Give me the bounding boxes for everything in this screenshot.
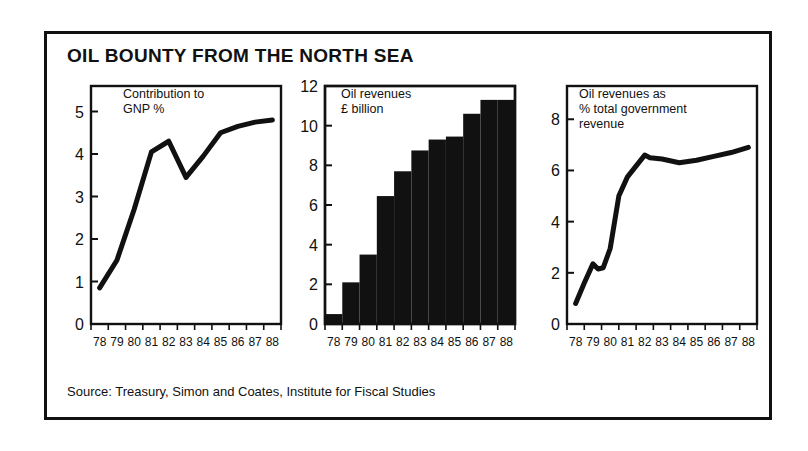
bar bbox=[480, 100, 497, 324]
chart-panel-contribution-to-gnp: 0123457879808182838485868788 Contributio… bbox=[57, 72, 289, 377]
figure-frame: OIL BOUNTY FROM THE NORTH SEA 0123457879… bbox=[44, 31, 772, 420]
bar bbox=[463, 114, 480, 324]
x-axis-tick-label: 83 bbox=[655, 335, 669, 349]
bar bbox=[342, 282, 359, 324]
bar-chart-oil-revenues: 0246810127879808182838485868788 bbox=[291, 72, 523, 377]
bar bbox=[498, 100, 515, 324]
chart-panel-oil-revenues: 0246810127879808182838485868788 Oil reve… bbox=[291, 72, 523, 377]
x-axis-tick-label: 78 bbox=[93, 335, 107, 349]
x-axis-tick-label: 83 bbox=[179, 335, 193, 349]
x-axis-tick-label: 85 bbox=[690, 335, 704, 349]
x-axis-tick-label: 84 bbox=[673, 335, 687, 349]
x-axis-tick-label: 81 bbox=[145, 335, 159, 349]
y-axis-tick-label: 2 bbox=[75, 231, 84, 248]
x-axis-tick-label: 83 bbox=[413, 335, 427, 349]
y-axis-tick-label: 0 bbox=[75, 316, 84, 333]
x-axis-tick-label: 79 bbox=[344, 335, 358, 349]
x-axis-tick-label: 82 bbox=[162, 335, 176, 349]
x-axis-tick-label: 78 bbox=[327, 335, 341, 349]
x-axis-tick-label: 81 bbox=[379, 335, 393, 349]
x-axis-tick-label: 85 bbox=[448, 335, 462, 349]
y-axis-tick-label: 4 bbox=[551, 214, 560, 231]
y-axis-tick-label: 3 bbox=[75, 189, 84, 206]
x-axis-tick-label: 84 bbox=[431, 335, 445, 349]
x-axis-tick-label: 86 bbox=[465, 335, 479, 349]
x-axis-tick-label: 85 bbox=[214, 335, 228, 349]
x-axis-tick-label: 78 bbox=[569, 335, 583, 349]
y-axis-tick-label: 6 bbox=[309, 197, 318, 214]
x-axis-tick-label: 86 bbox=[231, 335, 245, 349]
bar bbox=[411, 150, 428, 324]
data-line bbox=[576, 147, 749, 303]
y-axis-tick-label: 10 bbox=[300, 118, 318, 135]
page-title: OIL BOUNTY FROM THE NORTH SEA bbox=[67, 45, 414, 67]
x-axis-tick-label: 82 bbox=[396, 335, 410, 349]
data-line bbox=[100, 120, 273, 288]
x-axis-tick-label: 87 bbox=[724, 335, 738, 349]
y-axis-tick-label: 0 bbox=[309, 316, 318, 333]
bar bbox=[360, 255, 377, 324]
x-axis-tick-label: 79 bbox=[586, 335, 600, 349]
y-axis-tick-label: 12 bbox=[300, 78, 318, 95]
y-axis-tick-label: 4 bbox=[309, 237, 318, 254]
x-axis-tick-label: 88 bbox=[266, 335, 280, 349]
y-axis-tick-label: 5 bbox=[75, 104, 84, 121]
x-axis-tick-label: 80 bbox=[362, 335, 376, 349]
x-axis-tick-label: 84 bbox=[197, 335, 211, 349]
bar bbox=[429, 140, 446, 324]
bar bbox=[325, 314, 342, 324]
line-chart-government-revenue-share: 024687879808182838485868788 bbox=[533, 72, 765, 377]
y-axis-tick-label: 2 bbox=[309, 276, 318, 293]
x-axis-tick-label: 80 bbox=[128, 335, 142, 349]
x-axis-tick-label: 88 bbox=[742, 335, 756, 349]
x-axis-tick-label: 87 bbox=[248, 335, 262, 349]
x-axis-tick-label: 88 bbox=[500, 335, 514, 349]
y-axis-tick-label: 8 bbox=[551, 111, 560, 128]
y-axis-tick-label: 1 bbox=[75, 274, 84, 291]
bar bbox=[446, 137, 463, 324]
source-note: Source: Treasury, Simon and Coates, Inst… bbox=[67, 384, 435, 399]
chart-panel-share-of-government-revenue: 024687879808182838485868788 Oil revenues… bbox=[533, 72, 765, 377]
x-axis-tick-label: 80 bbox=[604, 335, 618, 349]
x-axis-tick-label: 82 bbox=[638, 335, 652, 349]
y-axis-tick-label: 6 bbox=[551, 162, 560, 179]
x-axis-tick-label: 86 bbox=[707, 335, 721, 349]
bar bbox=[394, 171, 411, 324]
y-axis-tick-label: 4 bbox=[75, 146, 84, 163]
y-axis-tick-label: 0 bbox=[551, 316, 560, 333]
panel-group: 0123457879808182838485868788 Contributio… bbox=[47, 72, 769, 377]
line-chart-gnp: 0123457879808182838485868788 bbox=[57, 72, 289, 377]
x-axis-tick-label: 81 bbox=[621, 335, 635, 349]
x-axis-tick-label: 87 bbox=[482, 335, 496, 349]
x-axis-tick-label: 79 bbox=[110, 335, 124, 349]
y-axis-tick-label: 2 bbox=[551, 265, 560, 282]
bar bbox=[377, 196, 394, 324]
y-axis-tick-label: 8 bbox=[309, 157, 318, 174]
